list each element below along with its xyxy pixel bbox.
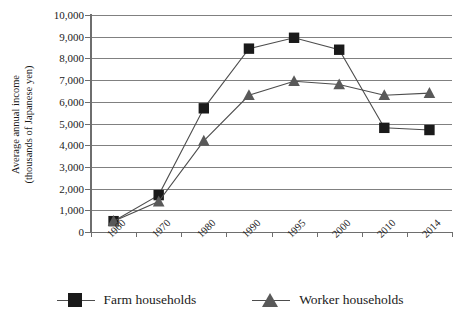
plot-area [91,15,452,232]
triangle-marker-icon [252,292,290,308]
x-tick [226,232,227,237]
y-tick-label: 3,000 [32,161,84,173]
data-point-square [244,43,254,53]
x-tick [452,232,453,237]
x-tick [407,232,408,237]
y-tick-label: 2,000 [32,183,84,195]
data-point-square [424,125,434,135]
chart-legend: Farm households Worker households [0,292,460,322]
y-tick-label: 10,000 [32,9,84,21]
legend-item-farm-households[interactable]: Farm households [57,292,197,308]
y-tick-label: 5,000 [32,118,84,130]
data-point-triangle [243,89,255,100]
x-tick [317,232,318,237]
y-axis-title: Average annual income (thousands of Japa… [10,5,35,245]
x-tick [91,232,92,237]
data-series-group [91,15,452,232]
legend-label-worker-households: Worker households [299,292,403,308]
x-tick [136,232,137,237]
x-tick [362,232,363,237]
y-tick-label: 8,000 [32,52,84,64]
data-point-square [379,123,389,133]
square-marker-icon [57,292,95,308]
data-point-triangle [424,87,436,98]
data-point-square [334,45,344,55]
chart-figure: Average annual income (thousands of Japa… [0,0,460,331]
y-tick-label: 9,000 [32,31,84,43]
legend-item-worker-households[interactable]: Worker households [252,292,403,308]
y-axis-title-container: Average annual income (thousands of Japa… [0,0,36,250]
data-point-square [199,103,209,113]
x-tick [181,232,182,237]
y-tick-label: 0 [32,226,84,238]
y-tick-label: 1,000 [32,204,84,216]
y-tick-label: 4,000 [32,139,84,151]
y-tick-label: 6,000 [32,96,84,108]
legend-label-farm-households: Farm households [104,292,197,308]
data-point-square [289,33,299,43]
y-tick-label: 7,000 [32,74,84,86]
x-tick [272,232,273,237]
data-point-triangle [288,75,300,86]
